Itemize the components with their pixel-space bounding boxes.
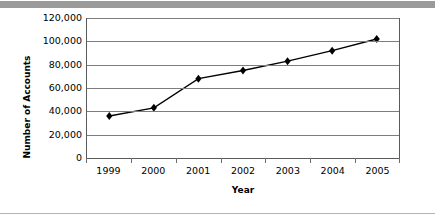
series-markers bbox=[106, 35, 380, 120]
series-line bbox=[109, 39, 376, 116]
data-point-marker bbox=[240, 67, 246, 75]
data-point-marker bbox=[106, 112, 112, 120]
gridline bbox=[87, 135, 399, 136]
gridline bbox=[87, 65, 399, 66]
x-tick-mark bbox=[131, 158, 132, 163]
bottom-decorative-rule bbox=[0, 213, 435, 214]
data-point-marker bbox=[195, 75, 201, 83]
y-tick-label: 0 bbox=[22, 153, 82, 163]
x-tick-label: 2001 bbox=[175, 165, 221, 176]
x-axis-ticks bbox=[86, 158, 400, 164]
x-axis-tick-labels: 1999 2000 2001 2002 2003 2004 2005 bbox=[86, 165, 400, 181]
x-tick-mark bbox=[221, 158, 222, 163]
x-tick-label: 2005 bbox=[355, 165, 401, 176]
x-tick-mark bbox=[265, 158, 266, 163]
y-tick-label: 100,000 bbox=[22, 36, 82, 46]
line-chart-figure: Number of Accounts 120,000 100,000 80,00… bbox=[0, 10, 435, 210]
x-tick-label: 1999 bbox=[85, 165, 131, 176]
x-tick-mark bbox=[176, 158, 177, 163]
gridline bbox=[87, 88, 399, 89]
gridline bbox=[87, 41, 399, 42]
plot-area bbox=[86, 18, 400, 158]
x-tick-label: 2002 bbox=[220, 165, 266, 176]
gridline bbox=[87, 111, 399, 112]
y-tick-label: 40,000 bbox=[22, 106, 82, 116]
x-tick-label: 2003 bbox=[265, 165, 311, 176]
x-tick-mark bbox=[310, 158, 311, 163]
x-tick-label: 2004 bbox=[310, 165, 356, 176]
y-tick-label: 80,000 bbox=[22, 60, 82, 70]
chart-page: Number of Accounts 120,000 100,000 80,00… bbox=[0, 0, 435, 222]
x-tick-label: 2000 bbox=[130, 165, 176, 176]
x-tick-mark bbox=[355, 158, 356, 163]
x-tick-mark bbox=[86, 158, 87, 163]
y-axis-tick-labels: 120,000 100,000 80,000 60,000 40,000 20,… bbox=[22, 18, 82, 158]
x-axis-title: Year bbox=[86, 185, 400, 195]
gridline bbox=[87, 18, 399, 19]
y-tick-label: 20,000 bbox=[22, 130, 82, 140]
data-point-marker bbox=[329, 47, 335, 55]
x-tick-mark bbox=[399, 158, 400, 163]
top-decorative-bar bbox=[0, 1, 435, 8]
y-tick-label: 120,000 bbox=[22, 13, 82, 23]
y-tick-label: 60,000 bbox=[22, 83, 82, 93]
